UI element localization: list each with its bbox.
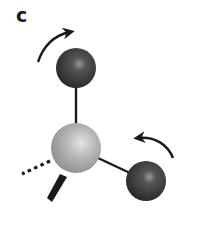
rotation-arrow-right-icon xyxy=(138,138,173,158)
molecule-diagram xyxy=(0,0,199,232)
bond-dashed-back xyxy=(22,161,50,174)
bond-wedge-front xyxy=(47,174,67,202)
atom-central xyxy=(51,123,101,173)
atom-right xyxy=(126,161,166,201)
bond-right xyxy=(98,158,130,173)
atom-top xyxy=(56,48,96,88)
